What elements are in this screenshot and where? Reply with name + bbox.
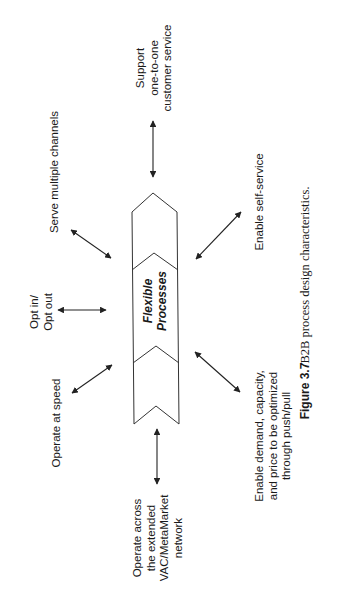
arrow-demand xyxy=(195,352,240,392)
label-operate-across-network: Operate across the extended VAC/MetaMark… xyxy=(131,495,185,582)
label-support-customer-service: Support one-to-one customer service xyxy=(134,25,175,112)
figure-caption: B2B process design characteristics. xyxy=(299,186,313,363)
center-label-flexible-processes: Flexible Processes xyxy=(141,271,169,331)
label-enable-demand-optimization: Enable demand, capacity, and price to be… xyxy=(253,370,294,501)
label-operate-at-speed: Operate at speed xyxy=(50,379,64,468)
arrow-channels xyxy=(71,230,111,258)
label-opt-in-out: Opt in/ Opt out xyxy=(28,293,55,331)
label-serve-multiple-channels: Serve multiple channels xyxy=(48,111,62,233)
arrow-self-service xyxy=(196,212,241,259)
diagram-canvas: Flexible Processes Support one-to-one cu… xyxy=(0,0,337,604)
label-enable-self-service: Enable self-service xyxy=(253,153,267,250)
figure-number: Figure 3.7 xyxy=(299,363,313,420)
arrow-speed xyxy=(72,365,112,393)
